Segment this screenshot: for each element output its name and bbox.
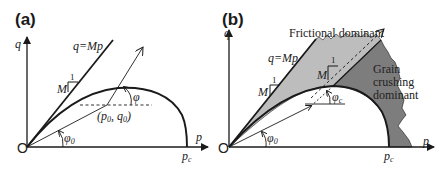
pc-label-b: pc (383, 149, 394, 164)
q-axis-label-b: q (224, 26, 230, 40)
panel-b: (b) q p O q=Mp 1 M 1 M (218, 10, 434, 164)
slope-rise-label: 1 (70, 72, 75, 82)
slope-run-label: M (56, 82, 68, 96)
csl-label-b: q=Mp (268, 51, 298, 65)
figure: (a) q p O q=Mp 1 M φ (p0, q0) φ0 pc (0, 0, 447, 169)
grain-crushing-label-line1: Grain (373, 62, 400, 76)
slope2-run-label: M (316, 68, 328, 82)
phi0-angle-arc-b (262, 132, 266, 147)
phi0-angle-arc (59, 131, 63, 147)
panel-a: (a) q p O q=Mp 1 M φ (p0, q0) φ0 pc (15, 10, 208, 164)
panel-a-label: (a) (15, 10, 36, 29)
slope2-rise-label: 1 (331, 55, 336, 65)
q-axis-label: q (15, 37, 21, 51)
phi-angle-arc (124, 87, 131, 105)
point-label: (p0, q0) (97, 109, 131, 124)
phi0-label: φ0 (64, 131, 75, 146)
phi0-label-b: φ0 (267, 131, 278, 146)
phic-angle-arc (327, 91, 330, 104)
frictional-dominant-label: Frictional dominant (289, 26, 385, 40)
phi-label: φ (133, 90, 140, 104)
pc-label: pc (181, 149, 192, 164)
slope-run-label-b: M (257, 85, 269, 99)
grain-crushing-label-line2: crushing (373, 75, 414, 89)
p-axis-label: p (195, 130, 202, 144)
grain-crushing-label-line3: dominant (373, 88, 419, 102)
slope-rise-label-b: 1 (272, 75, 277, 85)
origin-label: O (17, 140, 28, 156)
p-axis-label-b: p (422, 134, 429, 148)
origin-label-b: O (218, 140, 229, 156)
csl-label: q=Mp (73, 39, 103, 53)
stress-path-continuation-b (311, 88, 331, 106)
phic-label: φc (332, 90, 343, 105)
